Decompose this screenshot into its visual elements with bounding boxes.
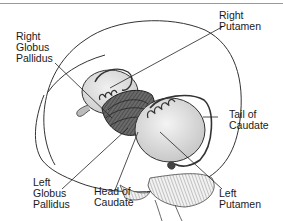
label-tail-of-caudate: Tail of Caudate <box>229 109 269 131</box>
label-left-globus-pallidus: Left Globus Pallidus <box>33 177 70 210</box>
label-right-globus-pallidus: Right Globus Pallidus <box>16 31 53 64</box>
label-right-putamen: Right Putamen <box>219 10 261 32</box>
label-left-putamen: Left Putamen <box>219 188 261 210</box>
leader-right-putamen <box>110 27 222 88</box>
label-head-of-caudate: Head of Caudate <box>94 186 134 208</box>
brainstem <box>120 174 214 221</box>
left-putamen <box>135 96 211 170</box>
leader-left-globus-pallidus <box>62 128 128 189</box>
leader-head-of-caudate <box>115 132 138 190</box>
